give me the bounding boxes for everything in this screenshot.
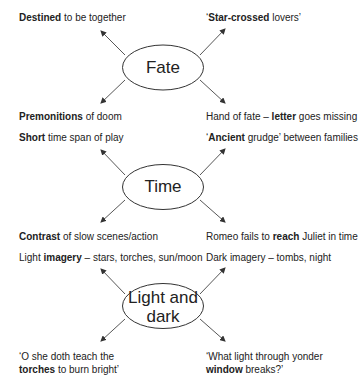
branch-torches-quote: ‘O she doth teach the torches to burn br… bbox=[19, 350, 119, 376]
branch-premonitions: Premonitions of doom bbox=[19, 110, 122, 123]
light-dark-node: Light and dark bbox=[122, 284, 204, 329]
fate-node: Fate bbox=[122, 45, 204, 90]
branch-contrast: Contrast of slow scenes/action bbox=[19, 230, 158, 243]
branch-short: Short time span of play bbox=[19, 131, 123, 144]
light-dark-node-label-line1: Light and bbox=[128, 288, 198, 307]
fate-node-label: Fate bbox=[146, 58, 180, 77]
branch-window-quote: ‘What light through yonder window breaks… bbox=[206, 350, 323, 376]
branch-light-imagery: Light imagery – stars, torches, sun/moon bbox=[19, 251, 202, 264]
branch-hand-of-fate: Hand of fate – letter goes missing bbox=[206, 110, 357, 123]
branch-romeo-fails: Romeo fails to reach Juliet in time bbox=[206, 230, 358, 243]
branch-star-crossed: ‘Star-crossed lovers’ bbox=[206, 11, 301, 24]
branch-destined: Destined to be together bbox=[19, 11, 126, 24]
time-node-label: Time bbox=[144, 177, 181, 196]
branch-ancient-grudge: ‘Ancient grudge’ between families bbox=[206, 131, 358, 144]
time-node: Time bbox=[122, 164, 204, 209]
branch-dark-imagery: Dark imagery – tombs, night bbox=[206, 251, 331, 264]
light-dark-node-label-line2: dark bbox=[146, 307, 179, 326]
